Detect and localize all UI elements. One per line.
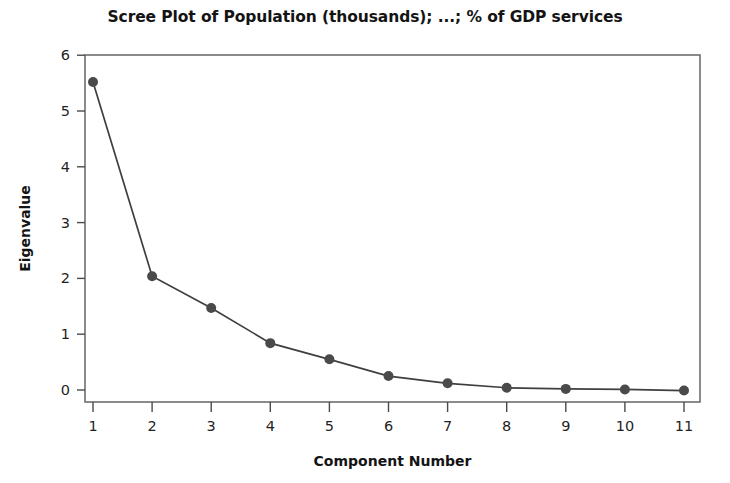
x-tick-label: 4: [266, 418, 275, 434]
x-tick-label: 2: [147, 418, 156, 434]
data-point: [620, 384, 630, 394]
x-tick-label: 8: [502, 418, 511, 434]
data-point: [147, 271, 157, 281]
y-tick-2: 2: [61, 270, 85, 286]
x-tick-5: 5: [325, 402, 334, 434]
x-tick-11: 11: [675, 402, 693, 434]
y-tick-label: 0: [61, 382, 70, 398]
x-tick-6: 6: [384, 402, 393, 434]
x-tick-label: 1: [88, 418, 97, 434]
data-point: [206, 303, 216, 313]
y-tick-6: 6: [61, 47, 85, 63]
data-point: [561, 384, 571, 394]
x-tick-2: 2: [147, 402, 156, 434]
y-tick-label: 3: [61, 215, 70, 231]
x-axis-title: Component Number: [314, 453, 472, 469]
y-tick-3: 3: [61, 215, 85, 231]
x-tick-label: 5: [325, 418, 334, 434]
y-axis: 0 1 2 3 4 5 6: [61, 47, 85, 398]
x-tick-8: 8: [502, 402, 511, 434]
x-tick-label: 3: [207, 418, 216, 434]
x-tick-label: 11: [675, 418, 693, 434]
plot-frame: [85, 55, 700, 402]
data-point: [88, 77, 98, 87]
x-tick-label: 6: [384, 418, 393, 434]
y-axis-title: Eigenvalue: [17, 185, 33, 272]
y-tick-0: 0: [61, 382, 85, 398]
scree-plot-figure: Scree Plot of Population (thousands); ..…: [0, 0, 730, 483]
x-tick-label: 7: [443, 418, 452, 434]
x-tick-3: 3: [207, 402, 216, 434]
x-tick-10: 10: [616, 402, 634, 434]
y-tick-label: 6: [61, 47, 70, 63]
x-tick-4: 4: [266, 402, 275, 434]
y-tick-label: 5: [61, 103, 70, 119]
data-point: [679, 386, 689, 396]
data-point: [324, 354, 334, 364]
data-point: [384, 371, 394, 381]
y-tick-5: 5: [61, 103, 85, 119]
x-axis: 1 2 3 4 5 6 7: [88, 402, 693, 434]
data-point: [265, 338, 275, 348]
scree-plot-canvas: 0 1 2 3 4 5 6: [0, 0, 730, 483]
x-tick-7: 7: [443, 402, 452, 434]
y-tick-label: 1: [61, 326, 70, 342]
x-tick-label: 10: [616, 418, 634, 434]
y-tick-label: 2: [61, 270, 70, 286]
x-tick-1: 1: [88, 402, 97, 434]
y-tick-4: 4: [61, 159, 85, 175]
y-tick-1: 1: [61, 326, 85, 342]
x-tick-label: 9: [561, 418, 570, 434]
y-tick-label: 4: [61, 159, 70, 175]
data-point: [443, 378, 453, 388]
x-tick-9: 9: [561, 402, 570, 434]
data-point: [502, 383, 512, 393]
